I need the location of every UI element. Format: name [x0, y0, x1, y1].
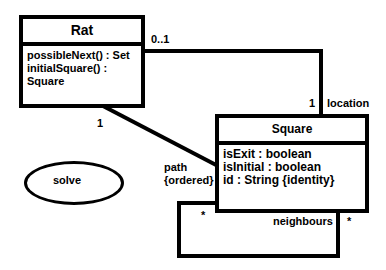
neighbours-multiplicity-right: *: [347, 215, 351, 227]
path-association-line: [103, 106, 218, 166]
usecase-label: solve: [53, 174, 81, 186]
operation: possibleNext() : Set: [27, 49, 141, 62]
class-square-name: Square: [219, 118, 365, 145]
class-rat[interactable]: Rat possibleNext() : Set initialSquare()…: [19, 15, 145, 108]
path-rat-multiplicity: 1: [97, 117, 103, 129]
path-role: path: [164, 161, 187, 173]
class-rat-name: Rat: [23, 19, 141, 46]
location-role: location: [327, 97, 369, 109]
attribute: id : String {identity}: [223, 174, 365, 187]
class-square-attributes: isExit : boolean isInitial : boolean id …: [219, 145, 365, 187]
class-square[interactable]: Square isExit : boolean isInitial : bool…: [215, 114, 369, 213]
neighbours-role: neighbours: [273, 215, 333, 227]
location-rat-multiplicity: 0..1: [151, 33, 169, 45]
class-rat-operations: possibleNext() : Set initialSquare() : S…: [23, 46, 141, 88]
usecase-solve[interactable]: solve: [24, 161, 124, 205]
path-constraint: {ordered}: [164, 174, 214, 186]
operation: initialSquare() : Square: [27, 62, 141, 88]
neighbours-multiplicity-left: *: [201, 209, 205, 221]
location-association-line: [144, 51, 321, 117]
location-square-multiplicity: 1: [309, 97, 315, 109]
